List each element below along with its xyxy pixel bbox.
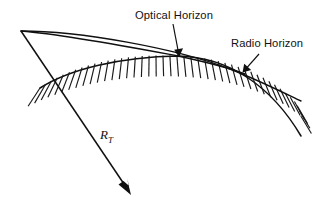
- hatch-line: [177, 56, 179, 77]
- earth-radius-subscript: T: [108, 135, 113, 145]
- hatch-line: [263, 78, 271, 97]
- optical-horizon-label: Optical Horizon: [135, 9, 213, 22]
- earth-radius-line: [21, 31, 126, 187]
- hatch-line: [134, 57, 135, 78]
- hatch-line: [251, 72, 258, 92]
- hatch-line: [232, 65, 238, 85]
- earth-radius-label: RT: [100, 127, 113, 145]
- hatch-line: [170, 56, 171, 77]
- horizon-diagram-figure: Optical Horizon Radio Horizon RT: [0, 0, 321, 215]
- optical-horizon-ray: [21, 31, 245, 74]
- optical-horizon-leader-line: [173, 24, 178, 51]
- earth-radius-arrowhead: [119, 179, 132, 195]
- radio-horizon-leader-line: [247, 54, 260, 68]
- radio-horizon-label: Radio Horizon: [231, 37, 303, 50]
- hatch-line: [184, 56, 186, 77]
- diagram-canvas: [0, 0, 321, 215]
- hatch-line: [299, 111, 310, 129]
- hatch-line: [269, 81, 277, 100]
- hatch-line: [141, 56, 142, 77]
- hatch-line: [301, 116, 312, 134]
- earth-radius-symbol: R: [100, 127, 108, 142]
- hatch-line: [163, 55, 164, 76]
